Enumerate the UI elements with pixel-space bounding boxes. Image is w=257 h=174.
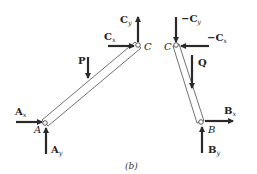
free-body-diagram: Ax A Ay P Cx Cy C C −Cy −Cx Q Bx B By (b… [0,0,257,174]
pin-b-icon [199,120,204,125]
label-cy: Cy [120,14,132,27]
label-pin-c-right: C [164,41,172,52]
member-cb [173,44,204,123]
label-pin-c-left: C [144,41,152,52]
pin-a-icon [43,121,48,126]
member-ac [42,42,141,126]
label-neg-cx: −Cx [207,32,227,45]
label-q: Q [198,57,207,68]
label-bx: Bx [224,105,236,118]
pin-c-left-icon [136,43,141,48]
pin-c-right-icon [174,43,179,48]
label-neg-cy: −Cy [181,13,201,26]
figure-caption: (b) [125,161,138,171]
label-ax: Ax [14,106,27,119]
label-ay: Ay [50,144,63,157]
label-pin-b: B [207,124,215,135]
label-p: P [78,55,86,66]
label-by: By [208,144,220,157]
label-cx: Cx [104,31,116,44]
label-pin-a: A [33,124,41,135]
